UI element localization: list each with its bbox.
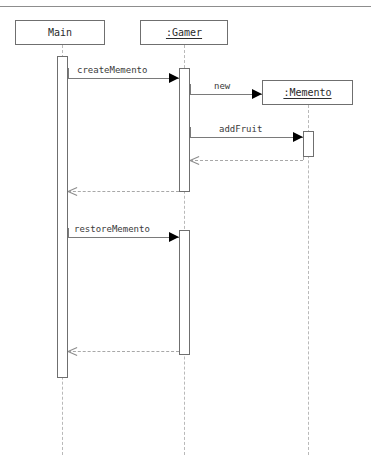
header-text-fragment: ··· ·· ···· ·· ·· ···: [2, 0, 101, 3]
participant-label-main: Main: [48, 27, 72, 38]
message-line-m6: [68, 237, 179, 238]
call-arrowhead-icon-m1: [169, 73, 179, 83]
return-arrowhead-icon-m5: [68, 186, 78, 196]
message-line-m1: [68, 78, 179, 79]
activation-bar-memento: [303, 131, 314, 157]
header-divider: [0, 6, 371, 7]
call-arrowhead-icon-m3: [293, 132, 303, 142]
participant-box-main[interactable]: Main: [15, 20, 105, 45]
message-line-m3: [190, 137, 303, 138]
participant-label-memento: :Memento: [283, 87, 331, 98]
return-arrowhead-icon-m7: [68, 346, 78, 356]
message-line-m4: [190, 160, 303, 161]
message-stub-m1: [68, 68, 69, 78]
message-line-m7: [68, 351, 179, 352]
message-label-m2: new: [214, 81, 230, 91]
participant-box-memento[interactable]: :Memento: [262, 80, 353, 105]
message-stub-m4: [303, 157, 304, 160]
activation-bar-gamer: [179, 68, 190, 192]
call-arrowhead-icon-m2: [252, 89, 262, 99]
participant-label-gamer: :Gamer: [166, 27, 202, 38]
message-stub-m6: [68, 228, 69, 237]
message-line-m5: [68, 191, 179, 192]
page-header-strip: ··· ·· ···· ·· ·· ···: [0, 0, 371, 8]
lifeline-memento: [308, 105, 309, 455]
message-label-m3: addFruit: [219, 124, 262, 134]
message-stub-m2: [190, 84, 191, 94]
call-arrowhead-icon-m6: [169, 232, 179, 242]
activation-bar-gamer: [179, 230, 190, 355]
participant-box-gamer[interactable]: :Gamer: [140, 20, 228, 45]
message-label-m1: createMemento: [77, 65, 147, 75]
activation-bar-main: [57, 56, 68, 378]
message-stub-m3: [190, 127, 191, 137]
return-arrowhead-icon-m4: [190, 155, 200, 165]
message-label-m6: restoreMemento: [74, 224, 150, 234]
sequence-diagram-canvas: ··· ·· ···· ·· ·· ··· createMementonewad…: [0, 0, 371, 476]
